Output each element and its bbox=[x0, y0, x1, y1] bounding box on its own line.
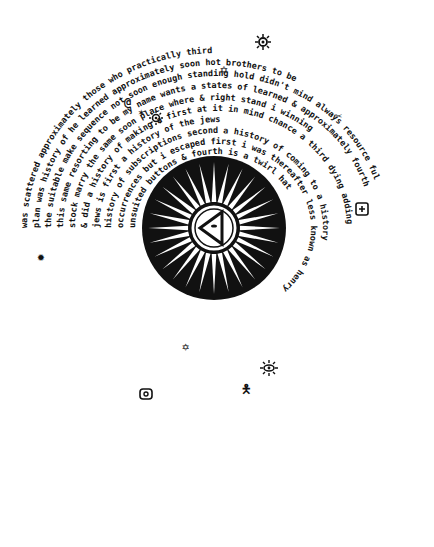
sun-glyph-icon bbox=[260, 360, 278, 376]
star-glyph-icon: ✹ bbox=[37, 249, 45, 264]
spiral-text-mandala: was scattered approximately those who pr… bbox=[0, 0, 434, 547]
spiral-glyph-icon: @ bbox=[124, 95, 131, 109]
star-glyph-icon: ✡ bbox=[182, 340, 189, 354]
scissors-glyph-icon: ✂ bbox=[335, 109, 342, 123]
boxed-plus-glyph-icon bbox=[356, 203, 368, 215]
boxed-circle-glyph-icon bbox=[140, 389, 152, 399]
figure-glyph-icon: 🯅 bbox=[241, 382, 252, 396]
sunburst-medallion bbox=[142, 156, 286, 300]
star-glyph-icon: ✶ bbox=[138, 106, 145, 119]
sun-glyph-icon bbox=[255, 34, 271, 50]
star-glyph-icon: ✡ bbox=[220, 62, 228, 77]
